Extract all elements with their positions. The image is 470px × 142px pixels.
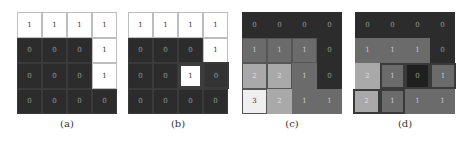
- grid-c: 0 0 0 0 1 1 1 0 2 2 1 0 3 2 1 1: [242, 12, 342, 114]
- cell-d-0-0: 0: [355, 12, 380, 38]
- cell-c-3-2: 1: [292, 89, 317, 115]
- cell-a-3-0: 0: [17, 89, 42, 115]
- cell-a-2-2: 0: [67, 63, 92, 89]
- cell-d-1-3: 0: [430, 38, 455, 64]
- cell-c-1-3: 0: [317, 38, 342, 64]
- caption-d: (d): [355, 118, 455, 129]
- cell-d-0-1: 0: [380, 12, 405, 38]
- cell-b-3-0: 0: [128, 89, 153, 115]
- caption-a: (a): [17, 118, 117, 129]
- cell-a-2-0: 0: [17, 63, 42, 89]
- panel-d: 0 0 0 0 1 1 1 0 2 1 0 1 2 1 1 1: [355, 12, 455, 114]
- cell-b-2-1: 0: [153, 63, 178, 89]
- cell-d-2-1-highlighted: 1: [380, 63, 405, 89]
- cell-a-2-1: 0: [42, 63, 67, 89]
- grid-d: 0 0 0 0 1 1 1 0 2 1 0 1 2 1 1 1: [355, 12, 455, 114]
- cell-c-1-0: 1: [242, 38, 267, 64]
- grid-a: 1 1 1 1 0 0 0 1 0 0 0 1 0 0 0 0: [17, 12, 117, 114]
- cell-c-2-3: 0: [317, 63, 342, 89]
- cell-a-1-1: 0: [42, 38, 67, 64]
- cell-b-0-0: 1: [128, 12, 153, 38]
- cell-b-0-3: 1: [203, 12, 228, 38]
- cell-d-0-2: 0: [405, 12, 430, 38]
- panel-b: 1 1 1 1 0 0 0 1 0 0 1 0 0 0 0 0: [128, 12, 228, 114]
- cell-b-3-2: 0: [178, 89, 203, 115]
- cell-b-3-1: 0: [153, 89, 178, 115]
- cell-a-1-0: 0: [17, 38, 42, 64]
- cell-a-3-2: 0: [67, 89, 92, 115]
- cell-d-1-2: 1: [405, 38, 430, 64]
- cell-b-2-3-highlighted: 0: [203, 62, 229, 89]
- cell-c-0-1: 0: [267, 12, 292, 38]
- cell-b-2-2-highlighted: 1: [178, 63, 203, 89]
- cell-c-1-2: 1: [292, 38, 317, 64]
- cell-a-0-2: 1: [67, 12, 92, 38]
- cell-d-1-0: 1: [355, 38, 380, 64]
- cell-d-1-1: 1: [380, 38, 405, 64]
- cell-b-2-0: 0: [128, 63, 153, 89]
- cell-c-3-3: 1: [317, 89, 342, 115]
- cell-c-2-1: 2: [267, 63, 292, 89]
- cell-d-3-0-highlighted: 2: [353, 89, 380, 115]
- panel-a: 1 1 1 1 0 0 0 1 0 0 0 1 0 0 0 0: [17, 12, 117, 114]
- panel-c: 0 0 0 0 1 1 1 0 2 2 1 0 3 2 1 1: [242, 12, 342, 114]
- cell-a-3-1: 0: [42, 89, 67, 115]
- cell-b-0-2: 1: [178, 12, 203, 38]
- cell-d-2-2-highlighted: 0: [405, 63, 430, 89]
- cell-d-3-2: 1: [405, 89, 430, 115]
- caption-b: (b): [128, 118, 228, 129]
- cell-d-2-0: 2: [355, 63, 380, 89]
- cell-a-3-3: 0: [92, 89, 117, 115]
- cell-a-0-1: 1: [42, 12, 67, 38]
- cell-b-3-3: 0: [203, 89, 228, 115]
- grid-b: 1 1 1 1 0 0 0 1 0 0 1 0 0 0 0 0: [128, 12, 228, 114]
- cell-d-3-1-highlighted: 1: [380, 89, 405, 115]
- caption-c: (c): [242, 118, 342, 129]
- cell-d-2-3-highlighted: 1: [430, 63, 456, 89]
- cell-a-0-0: 1: [17, 12, 42, 38]
- cell-a-2-3: 1: [92, 63, 117, 89]
- cell-c-0-2: 0: [292, 12, 317, 38]
- cell-a-0-3: 1: [92, 12, 117, 38]
- cell-b-1-1: 0: [153, 38, 178, 64]
- cell-a-1-2: 0: [67, 38, 92, 64]
- cell-d-0-3: 0: [430, 12, 455, 38]
- cell-c-0-3: 0: [317, 12, 342, 38]
- cell-c-0-0: 0: [242, 12, 267, 38]
- cell-c-3-1: 2: [267, 89, 292, 115]
- cell-c-1-1: 1: [267, 38, 292, 64]
- cell-b-1-3: 1: [203, 38, 228, 64]
- cell-b-0-1: 1: [153, 12, 178, 38]
- cell-c-2-0: 2: [242, 63, 267, 89]
- cell-a-1-3: 1: [92, 38, 117, 64]
- cell-b-1-2: 0: [178, 38, 203, 64]
- cell-c-3-0: 3: [242, 89, 267, 115]
- cell-b-1-0: 0: [128, 38, 153, 64]
- cell-d-3-3: 1: [430, 89, 455, 115]
- cell-c-2-2: 1: [292, 63, 317, 89]
